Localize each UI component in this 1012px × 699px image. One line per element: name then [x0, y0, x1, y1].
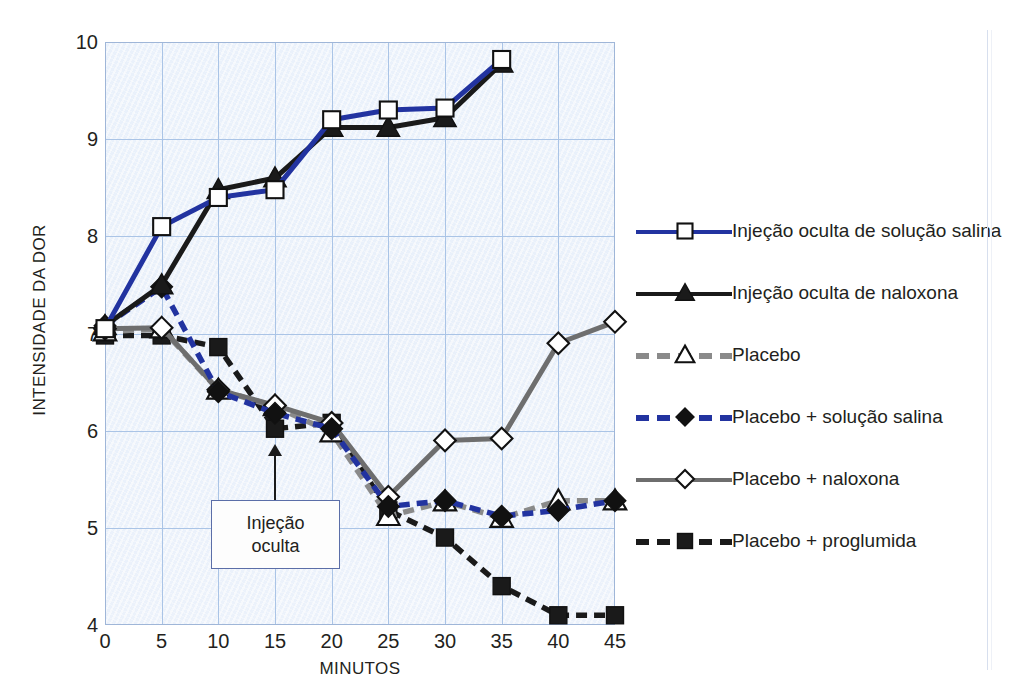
x-axis-ticks: 051015202530354045 [105, 630, 615, 658]
y-axis-tick-label: 5 [70, 517, 98, 540]
legend-swatch [636, 404, 732, 430]
open-diamond-marker-icon [674, 466, 696, 492]
series-3 [94, 317, 627, 527]
open-square-marker-icon [493, 51, 510, 68]
x-axis-tick-label: 0 [85, 630, 125, 653]
y-axis-ticks: 45678910 [60, 42, 98, 625]
x-axis-tick-label: 35 [482, 630, 522, 653]
chart-page: 45678910 051015202530354045 MINUTOS INTE… [0, 0, 1012, 699]
open-square-marker-icon [267, 181, 284, 198]
x-axis-tick-label: 5 [142, 630, 182, 653]
page-edge-line-secondary [991, 30, 992, 670]
legend-swatch [636, 466, 732, 492]
filled-square-marker-icon [210, 339, 227, 356]
legend-label: Placebo + proglumida [732, 530, 916, 552]
x-axis-tick-label: 40 [538, 630, 578, 653]
annotation-line-1: Injeção [246, 512, 304, 535]
open-triangle-marker-icon [674, 342, 696, 368]
open-triangle-marker-icon [676, 346, 695, 363]
annotation-line-2: oculta [251, 535, 299, 558]
open-diamond-marker-icon [491, 428, 513, 450]
filled-triangle-marker-icon [674, 280, 696, 306]
open-square-marker-icon [380, 102, 397, 119]
plot-container: 45678910 051015202530354045 MINUTOS INTE… [0, 0, 700, 699]
legend-label: Placebo + naloxona [732, 468, 899, 490]
x-axis-tick-label: 15 [255, 630, 295, 653]
filled-square-marker-icon [437, 529, 454, 546]
series-line [105, 287, 615, 516]
legend-item[interactable]: Placebo + naloxona [636, 448, 1012, 510]
y-axis-tick-label: 10 [70, 31, 98, 54]
legend-item[interactable]: Placebo + proglumida [636, 510, 1012, 572]
filled-diamond-marker-icon [676, 408, 694, 426]
legend-item[interactable]: Placebo [636, 324, 1012, 386]
y-axis-tick-label: 8 [70, 225, 98, 248]
filled-square-marker-icon [493, 578, 510, 595]
x-axis-title: MINUTOS [105, 659, 615, 679]
legend-swatch [636, 342, 732, 368]
legend-label: Injeção oculta de naloxona [732, 282, 958, 304]
annotation-box: Injeção oculta [211, 500, 340, 569]
filled-square-marker-icon [678, 534, 693, 549]
legend-item[interactable]: Injeção oculta de naloxona [636, 262, 1012, 324]
x-axis-tick-label: 30 [425, 630, 465, 653]
page-edge-line [987, 30, 988, 670]
annotation-arrow-icon [274, 455, 276, 503]
x-axis-tick-label: 45 [595, 630, 635, 653]
open-square-marker-icon [153, 218, 170, 235]
series-2 [94, 52, 513, 334]
legend-item[interactable]: Placebo + solução salina [636, 386, 1012, 448]
open-square-marker-icon [97, 320, 114, 337]
open-square-marker-icon [437, 100, 454, 117]
filled-square-marker-icon [550, 607, 567, 624]
legend-label: Placebo + solução salina [732, 406, 943, 428]
x-axis-tick-label: 10 [198, 630, 238, 653]
open-square-marker-icon [323, 111, 340, 128]
open-square-marker-icon [210, 189, 227, 206]
open-diamond-marker-icon [548, 332, 570, 354]
y-axis-title: INTENSIDADE DA DOR [30, 170, 50, 470]
x-axis-tick-label: 20 [312, 630, 352, 653]
legend-swatch [636, 280, 732, 306]
legend-item[interactable]: Injeção oculta de solução salina [636, 200, 1012, 262]
chart-legend: Injeção oculta de solução salinaInjeção … [636, 200, 1012, 572]
x-axis-tick-label: 25 [368, 630, 408, 653]
legend-swatch [636, 528, 732, 554]
legend-swatch [636, 218, 732, 244]
open-square-marker-icon [674, 218, 696, 244]
filled-square-marker-icon [607, 607, 624, 624]
open-square-marker-icon [678, 224, 693, 239]
filled-diamond-marker-icon [674, 404, 696, 430]
series-line [105, 329, 615, 518]
legend-label: Injeção oculta de solução salina [732, 220, 1001, 242]
filled-triangle-marker-icon [676, 284, 695, 301]
series-4 [94, 276, 626, 527]
legend-label: Placebo [732, 344, 801, 366]
chart-series-layer [105, 42, 615, 625]
y-axis-tick-label: 9 [70, 128, 98, 151]
open-diamond-marker-icon [676, 470, 694, 488]
y-axis-tick-label: 6 [70, 420, 98, 443]
filled-square-marker-icon [674, 528, 696, 554]
open-diamond-marker-icon [604, 311, 626, 333]
